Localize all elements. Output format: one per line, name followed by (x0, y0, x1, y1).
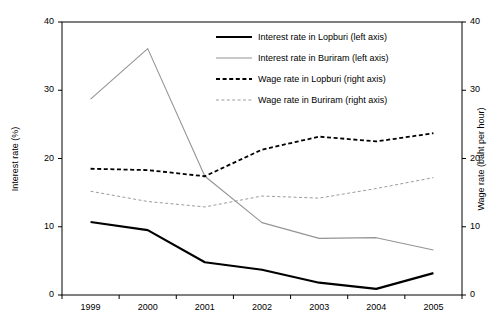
y-axis-right-tick-label: 10 (470, 221, 496, 231)
y-axis-left-title-text: Interest rate (%) (10, 126, 20, 191)
series-line-1 (91, 222, 434, 289)
legend-swatch-icon (216, 53, 252, 63)
y-axis-left-title: Interest rate (%) (8, 22, 22, 295)
x-axis-tick-label: 2001 (185, 302, 225, 312)
y-axis-right-tick-label: 20 (470, 153, 496, 163)
y-axis-right-tick-label: 40 (470, 16, 496, 26)
x-axis-tick-label: 2004 (356, 302, 396, 312)
legend-item-label: Wage rate in Lopburi (right axis) (258, 74, 386, 84)
y-axis-left-tick-label: 20 (28, 153, 54, 163)
x-axis-tick-label: 2000 (128, 302, 168, 312)
series-line-3 (91, 133, 434, 176)
x-axis-tick-label: 2005 (413, 302, 453, 312)
chart-container: Interest rate (%) Wage rate (baht per ho… (0, 0, 498, 334)
legend-swatch-icon (216, 32, 252, 42)
legend-item[interactable]: Wage rate in Lopburi (right axis) (216, 72, 386, 86)
y-axis-right-tick-label: 0 (470, 289, 496, 299)
legend-item-label: Interest rate in Buriram (left axis) (258, 53, 389, 63)
legend-swatch-icon (216, 74, 252, 84)
legend-item-label: Interest rate in Lopburi (left axis) (258, 32, 387, 42)
legend-item[interactable]: Interest rate in Buriram (left axis) (216, 51, 389, 65)
legend-item[interactable]: Wage rate in Buriram (right axis) (216, 93, 387, 107)
legend-swatch-icon (216, 95, 252, 105)
y-axis-left-tick-label: 30 (28, 84, 54, 94)
legend-item-label: Wage rate in Buriram (right axis) (258, 95, 387, 105)
x-axis-tick-label: 2003 (299, 302, 339, 312)
y-axis-left-tick-label: 40 (28, 16, 54, 26)
x-axis-tick-label: 2002 (242, 302, 282, 312)
legend-item[interactable]: Interest rate in Lopburi (left axis) (216, 30, 387, 44)
y-axis-left-tick-label: 10 (28, 221, 54, 231)
series-line-4 (91, 178, 434, 207)
y-axis-right-tick-label: 30 (470, 84, 496, 94)
y-axis-left-tick-label: 0 (28, 289, 54, 299)
x-axis-tick-label: 1999 (71, 302, 111, 312)
